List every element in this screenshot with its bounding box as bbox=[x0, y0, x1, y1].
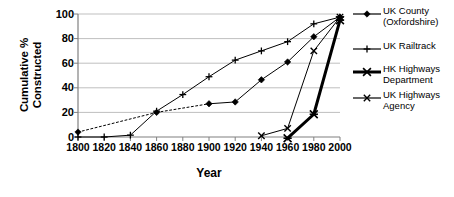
plus-line-key-icon bbox=[352, 41, 382, 53]
series-line-segment bbox=[288, 37, 314, 62]
diamond-line-key-icon bbox=[352, 6, 382, 18]
x-tick-label: 2000 bbox=[320, 141, 360, 153]
legend-label-line2: Department bbox=[383, 75, 440, 86]
y-tick-label: 20 bbox=[48, 107, 74, 118]
chart-legend: UK County(Oxfordshire)UK RailtrackHK Hig… bbox=[352, 6, 454, 114]
chart-figure: Cumulative % Constructed 100806040200 18… bbox=[0, 0, 454, 197]
legend-item-1[interactable]: UK Railtrack bbox=[352, 41, 436, 53]
y-axis-title-line1: Cumulative % bbox=[18, 38, 31, 112]
legend-key-svg bbox=[352, 66, 382, 78]
x-line-key-icon bbox=[352, 90, 382, 102]
legend-key-svg bbox=[352, 8, 382, 20]
legend-label: UK County(Oxfordshire) bbox=[382, 6, 438, 27]
legend-item-0[interactable]: UK County(Oxfordshire) bbox=[352, 6, 438, 27]
legend-key-svg bbox=[352, 43, 382, 55]
legend-label-line1: UK Railtrack bbox=[383, 41, 436, 52]
legend-label-line2: Agency bbox=[383, 101, 440, 112]
y-tick-label: 40 bbox=[48, 82, 74, 93]
legend-item-2[interactable]: HK HighwaysDepartment bbox=[352, 64, 440, 85]
series-1 bbox=[75, 14, 344, 141]
legend-label: UK HighwaysAgency bbox=[382, 90, 440, 111]
series-line-segment bbox=[209, 102, 235, 104]
legend-label: UK Railtrack bbox=[382, 41, 436, 52]
legend-label: HK HighwaysDepartment bbox=[382, 64, 440, 85]
x-axis-title: Year bbox=[78, 166, 340, 180]
series-line bbox=[261, 17, 340, 136]
series-line-segment bbox=[261, 62, 287, 80]
legend-item-3[interactable]: UK HighwaysAgency bbox=[352, 90, 440, 111]
legend-label-line1: HK Highways bbox=[383, 64, 440, 75]
legend-label-line1: UK Highways bbox=[383, 90, 440, 101]
legend-label-line1: UK County bbox=[383, 6, 438, 17]
series-line-segment bbox=[157, 104, 209, 113]
legend-label-line2: (Oxfordshire) bbox=[383, 17, 438, 28]
plot-area bbox=[78, 14, 340, 137]
y-axis-tick-labels: 100806040200 bbox=[48, 0, 74, 160]
y-axis-title-line2: Constructed bbox=[31, 38, 44, 112]
y-tick-label: 100 bbox=[48, 9, 74, 20]
asterisk-thick-line-key-icon bbox=[352, 64, 382, 76]
data-marker-diamond bbox=[364, 11, 370, 17]
y-tick-label: 60 bbox=[48, 58, 74, 69]
series-line-segment bbox=[235, 80, 261, 102]
y-tick-label: 80 bbox=[48, 33, 74, 44]
x-axis-tick-labels: 1800182018401860188019001920194019601980… bbox=[78, 141, 340, 157]
legend-key-svg bbox=[352, 92, 382, 104]
plot-svg bbox=[78, 14, 340, 137]
data-marker-diamond bbox=[206, 101, 212, 107]
